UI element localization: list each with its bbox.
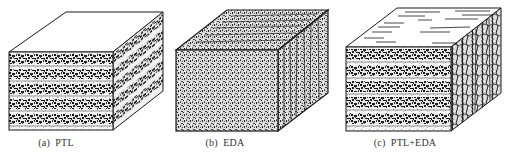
caption-a-ptl: (a) PTL [38,137,73,148]
caption-b-eda: (b) EDA [206,137,245,148]
figure-canvas [0,0,512,156]
cube-ptl-eda [346,8,501,131]
cube-ptl-eda-front-face [346,47,451,131]
caption-c-ptl-eda: (c) PTL+EDA [374,137,436,148]
cube-ptl-front-face [9,52,113,130]
cube-eda-front-face [176,50,278,131]
cube-ptl [9,10,165,132]
cube-eda [176,10,328,131]
